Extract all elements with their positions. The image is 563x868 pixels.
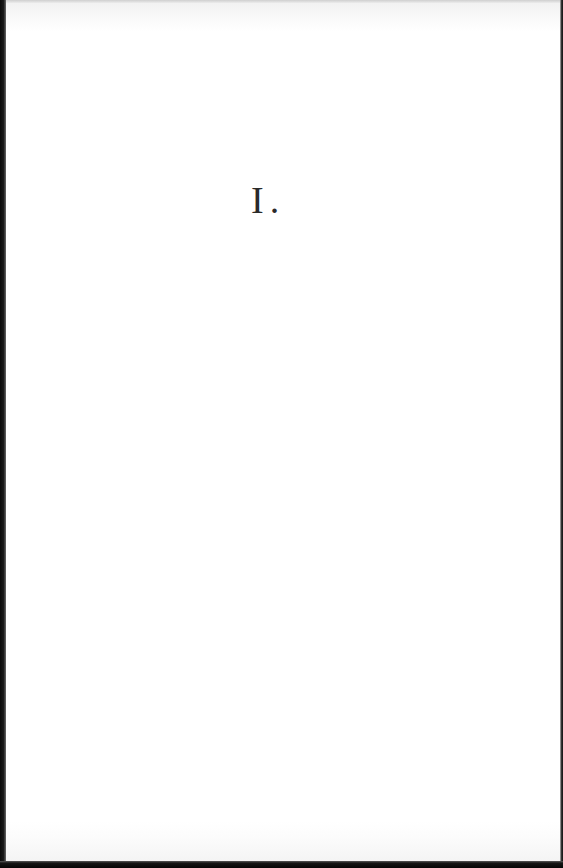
page-bottom-shading xyxy=(6,821,560,861)
scan-edge-bottom xyxy=(0,861,563,868)
section-heading: I. xyxy=(251,178,285,222)
page-top-shading xyxy=(6,3,560,31)
scan-edge-left xyxy=(0,0,6,868)
scanned-page: I. xyxy=(0,0,563,868)
